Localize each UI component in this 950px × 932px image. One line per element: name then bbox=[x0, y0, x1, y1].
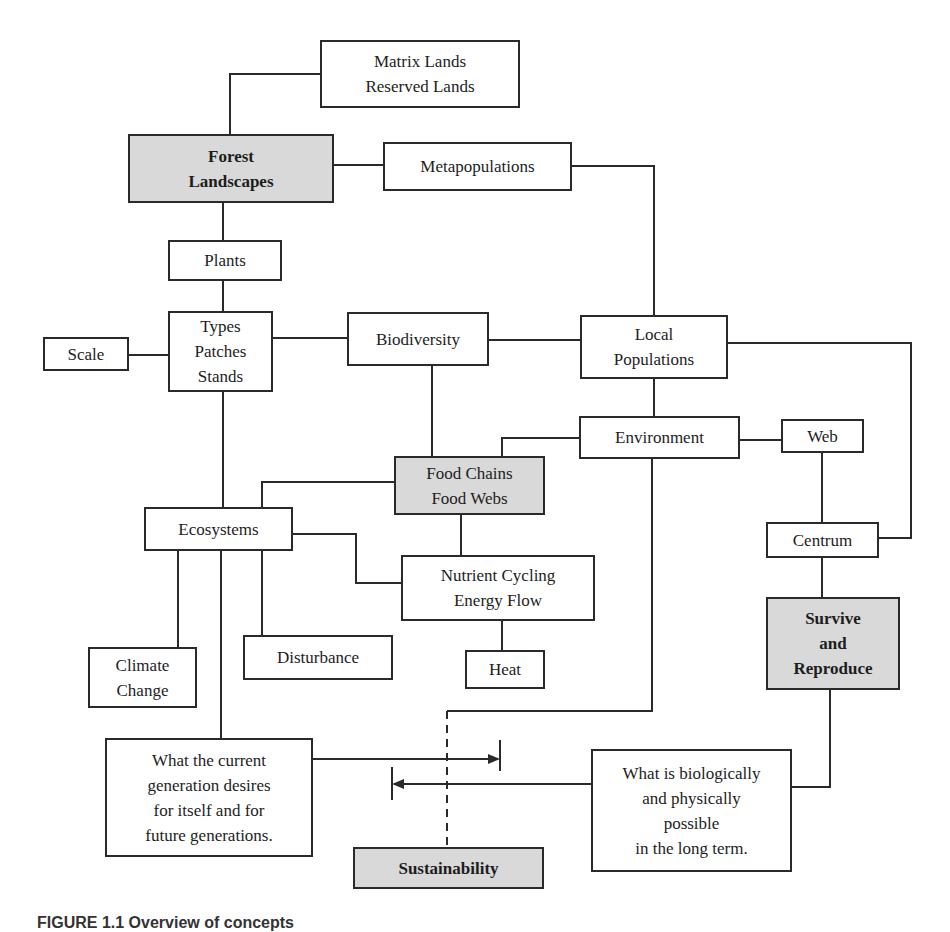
connector-ecosystems-nutrient bbox=[293, 534, 401, 583]
node-types-patches-stands: Types Patches Stands bbox=[168, 311, 273, 392]
connector-metapopulations-local bbox=[572, 166, 654, 315]
node-biodiversity: Biodiversity bbox=[347, 312, 489, 366]
node-climate-change: Climate Change bbox=[88, 647, 197, 708]
node-forest-landscapes: Forest Landscapes bbox=[128, 134, 334, 203]
node-current-generation-desires: What the current generation desires for … bbox=[105, 738, 313, 857]
node-food-chains-food-webs: Food Chains Food Webs bbox=[394, 456, 545, 515]
connector-forest-matrix bbox=[230, 74, 320, 134]
node-ecosystems: Ecosystems bbox=[144, 507, 293, 551]
figure-caption: FIGURE 1.1 Overview of concepts bbox=[37, 914, 294, 932]
node-sustainability: Sustainability bbox=[353, 847, 544, 889]
node-environment: Environment bbox=[579, 416, 740, 459]
arrowhead-left-icon bbox=[392, 779, 404, 789]
node-heat: Heat bbox=[465, 650, 545, 689]
arrowhead-right-icon bbox=[488, 754, 500, 764]
node-centrum: Centrum bbox=[766, 522, 879, 558]
connector-environment-foodchains bbox=[502, 438, 579, 456]
node-biologically-possible: What is biologically and physically poss… bbox=[591, 749, 792, 872]
node-web: Web bbox=[781, 419, 864, 453]
node-local-populations: Local Populations bbox=[580, 315, 728, 379]
node-survive-and-reproduce: Survive and Reproduce bbox=[766, 597, 900, 690]
connector-survive-possible bbox=[792, 690, 830, 787]
node-matrix-lands: Matrix Lands Reserved Lands bbox=[320, 40, 520, 108]
node-metapopulations: Metapopulations bbox=[383, 142, 572, 191]
node-nutrient-cycling-energy-flow: Nutrient Cycling Energy Flow bbox=[401, 555, 595, 621]
connector-foodchains-ecosystems bbox=[262, 482, 394, 507]
node-plants: Plants bbox=[168, 240, 282, 281]
node-scale: Scale bbox=[43, 337, 129, 371]
node-disturbance: Disturbance bbox=[243, 635, 393, 680]
